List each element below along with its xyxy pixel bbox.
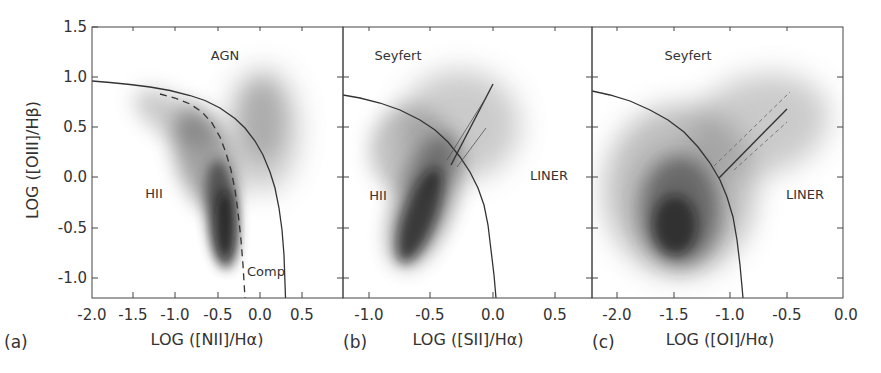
panel-a-letter: (a) [4,332,28,352]
panel-a-x-axis-title: LOG ([NII]/Hα) [151,330,264,349]
panel-c-x-tick-labels: -2.0 -1.5 -1.0 -0.5 0.0 [602,306,858,324]
svg-text:0.5: 0.5 [290,306,314,324]
svg-text:-0.5: -0.5 [203,306,232,324]
svg-text:0.0: 0.0 [481,306,505,324]
svg-text:1.5: 1.5 [63,18,87,36]
panel-b-x-tick-labels: -1.0 -0.5 0.0 0.5 [354,306,567,324]
label-agn: AGN [211,48,239,63]
label-seyfert-c: Seyfert [665,48,712,63]
svg-text:-1.0: -1.0 [58,269,87,287]
label-liner-b: LINER [530,168,568,183]
label-seyfert-b: Seyfert [375,48,422,63]
svg-text:-2.0: -2.0 [77,306,106,324]
svg-text:-1.0: -1.0 [160,306,189,324]
svg-text:0.5: 0.5 [543,306,567,324]
panel-a-x-tick-labels: -2.0 -1.5 -1.0 -0.5 0.0 0.5 [77,306,314,324]
svg-text:-0.5: -0.5 [58,219,87,237]
svg-text:0.0: 0.0 [834,306,858,324]
svg-text:-2.0: -2.0 [602,306,631,324]
svg-text:0.0: 0.0 [248,306,272,324]
label-comp: Comp [247,264,285,279]
svg-text:0.5: 0.5 [63,118,87,136]
label-hii-a: HII [145,186,162,201]
svg-text:-1.0: -1.0 [354,306,383,324]
label-liner-c: LINER [786,187,824,202]
svg-text:0.0: 0.0 [63,168,87,186]
y-tick-labels: 1.5 1.0 0.5 0.0 -0.5 -1.0 [58,18,87,287]
svg-text:-1.0: -1.0 [715,306,744,324]
label-hii-b: HII [369,188,386,203]
svg-text:-1.5: -1.5 [659,306,688,324]
panel-c-x-axis-title: LOG ([OI]/Hα) [666,330,775,349]
svg-text:-1.5: -1.5 [118,306,147,324]
panel-b-letter: (b) [343,332,367,352]
svg-text:-0.5: -0.5 [415,306,444,324]
panel-b-x-axis-title: LOG ([SII]/Hα) [413,330,524,349]
svg-text:1.0: 1.0 [63,68,87,86]
y-axis-title: LOG ([OIII]/Hβ) [23,101,42,219]
panel-c-letter: (c) [592,332,615,352]
svg-text:-0.5: -0.5 [772,306,801,324]
panel-a-density [125,68,299,271]
bpt-figure: 1.5 1.0 0.5 0.0 -0.5 -1.0 LOG ([OIII]/Hβ… [0,0,881,373]
panel-b-density [370,70,520,275]
panel-c-density [605,59,841,275]
